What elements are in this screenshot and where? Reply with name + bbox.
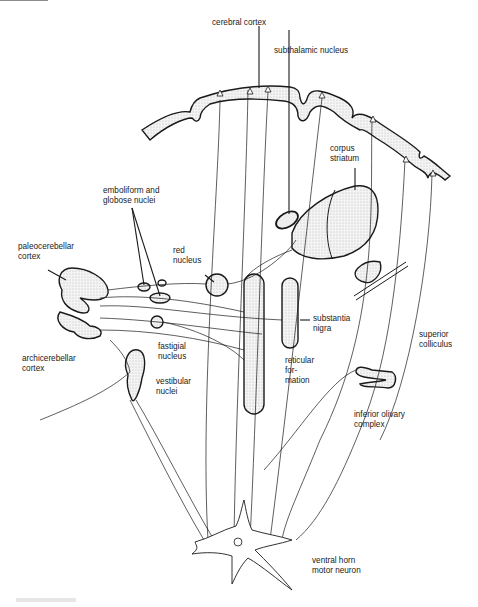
- label-reticular-2: for-: [285, 366, 297, 376]
- diagram-canvas: ="370" x2="62" y2="332"/> cerebral corte…: [0, 0, 478, 607]
- red-nucleus: [206, 274, 228, 296]
- label-inferior-olivary-1: inferior olivary: [354, 410, 405, 420]
- archicerebellar-cortex: [58, 312, 101, 339]
- label-fastigial-1: fastigial: [158, 342, 186, 352]
- label-archicerebellar-2: cortex: [22, 364, 44, 374]
- label-superior-colliculus-2: colliculus: [419, 340, 452, 350]
- figure-caption-faded: [16, 598, 76, 602]
- label-ventral-horn-1: ventral horn: [312, 556, 355, 566]
- substantia-nigra: [282, 278, 298, 348]
- label-cerebral-cortex: cerebral cortex: [212, 18, 266, 28]
- label-superior-colliculus-1: superior: [419, 330, 449, 340]
- label-substantia-nigra-1: substantia: [313, 314, 350, 324]
- label-reticular-3: mation: [285, 376, 310, 386]
- reticular-formation: [244, 274, 264, 414]
- vestibular-nuclei: [126, 350, 145, 401]
- label-inferior-olivary-2: complex: [354, 420, 385, 430]
- label-paleocerebellar-2: cortex: [18, 252, 40, 262]
- label-substantia-nigra-2: nigra: [313, 324, 331, 334]
- neuroanatomy-diagram: ="370" x2="62" y2="332"/>: [0, 0, 478, 607]
- label-emboliform-2: globose nuclei: [103, 196, 155, 206]
- label-corpus-striatum-1: corpus: [330, 144, 355, 154]
- label-red-nucleus-2: nucleus: [173, 256, 201, 266]
- label-reticular-1: reticular: [285, 356, 314, 366]
- label-subthalamic-nucleus: subthalamic nucleus: [274, 46, 348, 56]
- label-emboliform-1: emboliform and: [103, 186, 159, 196]
- label-vestibular-2: nuclei: [156, 387, 177, 397]
- label-fastigial-2: nucleus: [158, 352, 186, 362]
- label-red-nucleus-1: red: [173, 246, 185, 256]
- label-ventral-horn-2: motor neuron: [312, 566, 361, 576]
- label-vestibular-1: vestibular: [156, 377, 191, 387]
- label-paleocerebellar-1: paleocerebellar: [18, 242, 74, 252]
- cerebral-cortex-band: [142, 86, 450, 180]
- label-corpus-striatum-2: striatum: [330, 154, 359, 164]
- label-archicerebellar-1: archicerebellar: [22, 354, 76, 364]
